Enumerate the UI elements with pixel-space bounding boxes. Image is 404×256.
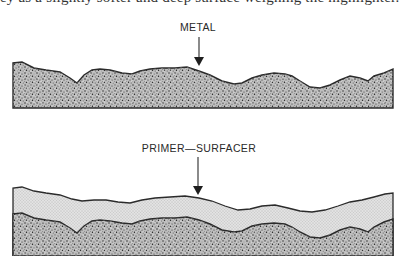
arrow-down-icon	[193, 186, 203, 195]
figure-bare-metal	[13, 37, 393, 108]
arrow-down-icon	[194, 57, 204, 66]
surface-profile-diagram	[0, 0, 404, 256]
primer-surfacer-label: PRIMER—SURFACER	[142, 142, 257, 154]
figure-primed-metal	[13, 157, 393, 256]
metal-label: METAL	[180, 21, 216, 33]
metal-texture	[13, 62, 393, 108]
